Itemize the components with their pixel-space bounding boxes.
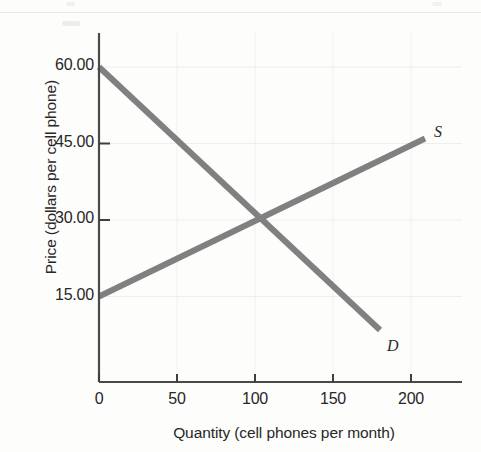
supply-curve [99,139,425,297]
supply-curve-label: S [434,123,442,141]
x-tick-label-200: 200 [381,390,441,408]
demand-curve [99,67,380,330]
gridlines-horizontal [99,67,462,297]
demand-curve-label: D [387,337,399,355]
x-tick-label-100: 100 [225,390,285,408]
x-tick-label-50: 50 [147,390,207,408]
x-tick-label-150: 150 [303,390,363,408]
y-axis-title: Price (dollars per cell phone) [42,27,60,327]
x-tick-label-0: 0 [69,390,129,408]
x-axis-title: Quantity (cell phones per month) [99,424,469,442]
chart-figure: 60.00 45.00 30.00 15.00 0 50 100 150 200… [0,0,481,452]
x-axis-ticks [99,374,411,382]
y-axis-ticks [99,144,110,221]
